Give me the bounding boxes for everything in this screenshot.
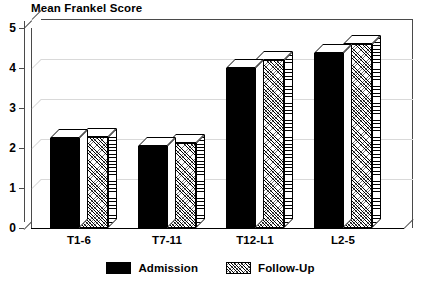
bar-front-face	[314, 53, 343, 228]
bar-side-face	[343, 44, 352, 228]
gridline-depth-connector	[32, 139, 42, 149]
legend-entry[interactable]: Admission	[106, 262, 198, 274]
y-axis-back-edge	[24, 21, 25, 222]
y-axis-tick-mark	[19, 108, 24, 109]
y-axis-tick-mark	[19, 68, 24, 69]
bar-group	[226, 28, 293, 228]
bar-side-face	[167, 137, 176, 228]
x-axis-category-label: L2-5	[294, 234, 392, 246]
gridline-depth-connector	[32, 99, 42, 109]
y-axis-tick-labels: 012345	[0, 0, 16, 286]
chart-legend: AdmissionFollow-Up	[0, 262, 421, 274]
bar-side-face	[79, 129, 88, 228]
legend-label: Follow-Up	[258, 262, 314, 274]
y-axis-tick-mark	[19, 28, 24, 29]
x-axis-category-label: T12-L1	[206, 234, 304, 246]
plot-frame-top-edge	[41, 19, 413, 20]
legend-label: Admission	[138, 262, 198, 274]
y-axis-tick-label: 5	[2, 22, 16, 34]
gridline-depth-connector	[32, 59, 42, 69]
bar-side-face	[372, 35, 381, 228]
bar-group	[314, 28, 381, 228]
bar-front-face	[138, 146, 167, 228]
bar-side-face	[196, 134, 205, 228]
bar-side-face	[255, 59, 264, 228]
x-axis-category-label: T1-6	[30, 234, 128, 246]
y-axis-tick-mark	[19, 228, 24, 229]
y-axis-tick-label: 3	[2, 102, 16, 114]
y-axis-tick-label: 0	[2, 222, 16, 234]
bar-front-face	[50, 138, 79, 228]
y-axis-tick-label: 2	[2, 142, 16, 154]
y-axis-tick-label: 4	[2, 62, 16, 74]
x-axis-baseline	[31, 228, 404, 229]
y-axis-tick-mark	[19, 188, 24, 189]
gridline-depth-connector	[32, 179, 42, 189]
mean-frankel-score-chart: Mean Frankel Score 012345 T1-6T7-11T12-L…	[0, 0, 421, 286]
chart-title: Mean Frankel Score	[31, 2, 142, 14]
hatched-swatch	[226, 262, 251, 274]
x-axis-category-label: T7-11	[118, 234, 216, 246]
y-axis-tick-label: 1	[2, 182, 16, 194]
bar-side-face	[108, 128, 117, 228]
plot-area	[32, 28, 404, 228]
solid-black-swatch	[106, 262, 131, 274]
bar-front-face	[226, 68, 255, 228]
legend-entry[interactable]: Follow-Up	[226, 262, 314, 274]
bar-side-face	[284, 51, 293, 228]
plot-frame-right-edge	[412, 19, 413, 228]
bar-group	[138, 28, 205, 228]
y-axis-tick-mark	[19, 148, 24, 149]
bar-group	[50, 28, 117, 228]
